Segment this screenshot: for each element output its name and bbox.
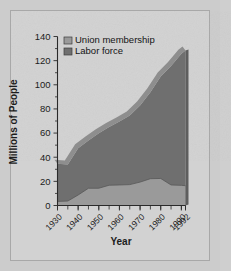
x-tick-layer xyxy=(58,206,186,211)
x-tick-label: 1980 xyxy=(147,212,168,233)
area-right-bevel xyxy=(186,49,189,205)
x-tick-label: 1992 xyxy=(171,212,192,233)
y-tick-label: 40 xyxy=(40,152,51,163)
y-tick-label: 80 xyxy=(40,103,51,114)
x-tick-label: 1940 xyxy=(64,212,85,233)
y-tick-label: 60 xyxy=(40,127,51,138)
y-axis-title: Millions of People xyxy=(8,79,19,164)
x-tick-label: 1950 xyxy=(85,212,106,233)
chart-legend: Union membershipLabor force xyxy=(64,34,155,56)
y-tick-label-layer: 020406080100120140 xyxy=(35,31,51,211)
y-tick-layer xyxy=(54,37,58,206)
y-tick-label: 120 xyxy=(35,55,51,66)
y-tick-label: 140 xyxy=(35,31,51,42)
legend-label: Labor force xyxy=(75,45,123,56)
x-axis-title: Year xyxy=(110,236,131,247)
legend-label: Union membership xyxy=(75,34,155,45)
y-tick-label: 20 xyxy=(40,176,51,187)
chart-plot-area: Millions of People 020406080100120140 19… xyxy=(0,0,220,271)
legend-swatch xyxy=(64,48,72,55)
x-tick-label: 1960 xyxy=(105,212,126,233)
figure-container: Millions of People 020406080100120140 19… xyxy=(0,0,220,271)
stacked-area-chart: Millions of People 020406080100120140 19… xyxy=(0,0,220,271)
x-tick-label: 1930 xyxy=(43,212,64,233)
x-tick-label-layer: 19301940195019601970198019901992 xyxy=(43,212,192,233)
legend-swatch xyxy=(64,37,72,44)
y-tick-label: 100 xyxy=(35,79,51,90)
y-tick-label: 0 xyxy=(45,200,50,211)
x-tick-label: 1970 xyxy=(126,212,147,233)
series-layer xyxy=(55,46,189,205)
